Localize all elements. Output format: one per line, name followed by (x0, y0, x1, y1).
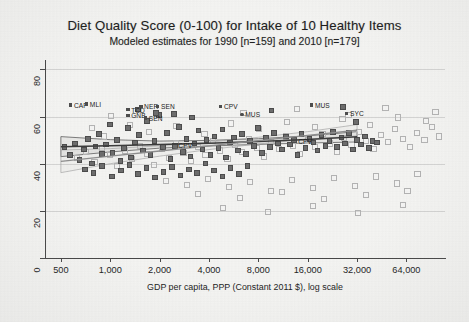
country-label-text: CPV (224, 103, 238, 110)
country-label-text: CPV (178, 142, 192, 149)
y-tick-label-20: 20 (32, 210, 42, 236)
chart-page: Diet Quality Score (0-100) for Intake of… (0, 0, 469, 322)
country-label-mli: MLI (85, 100, 101, 108)
plot-area: 020406080 5001,0002,0004,0008,00016,0003… (45, 60, 445, 258)
country-label-text: MUS (315, 102, 330, 109)
x-tick-label-4000: 4,000 (197, 265, 220, 275)
label-marker-icon (219, 105, 222, 108)
label-marker-icon (144, 116, 147, 119)
country-label-sen: SEN (156, 102, 175, 110)
country-label-text: SEN (149, 115, 163, 122)
y-tick-label-80: 80 (32, 68, 42, 94)
country-label-mus: MUS (310, 101, 330, 109)
y-axis-line (45, 60, 46, 259)
x-axis-title: GDP per capita, PPP (Constant 2011 $), l… (45, 282, 445, 292)
chart-subtitle: Modeled estimates for 1990 [n=159] and 2… (0, 35, 469, 49)
chart-title-block: Diet Quality Score (0-100) for Intake of… (0, 18, 469, 49)
country-label-text: SEN (161, 103, 175, 110)
x-tick-label-8000: 8,000 (247, 265, 270, 275)
country-label-syc: SYC (345, 109, 364, 117)
y-tick-label-0: 0 (32, 257, 42, 283)
x-tick-label-1000: 1,000 (99, 265, 122, 275)
country-label-sen: SEN (144, 114, 163, 122)
label-marker-icon (310, 103, 313, 106)
x-axis-line (45, 258, 446, 259)
country-label-text: MLI (90, 100, 101, 107)
x-tick-label-2000: 2,000 (148, 265, 171, 275)
country-label-cpv: CPV (298, 137, 312, 145)
x-tick-label-64000: 64,000 (392, 265, 420, 275)
label-marker-icon (240, 113, 243, 116)
label-marker-icon (69, 103, 72, 106)
country-label-cpv: CPV (219, 102, 238, 110)
label-marker-icon (345, 112, 348, 115)
country-label-mus: MUS (240, 110, 260, 118)
label-marker-icon (156, 105, 159, 108)
x-tick-label-500: 500 (53, 265, 68, 275)
label-marker-icon (126, 114, 129, 117)
country-label-text: MUS (245, 111, 260, 118)
trend-lines (45, 60, 445, 258)
country-label-text: CPV (298, 138, 312, 145)
y-tick-label-60: 60 (32, 116, 42, 142)
x-tick-label-32000: 32,000 (343, 265, 371, 275)
label-marker-icon (139, 105, 142, 108)
country-label-cpv: CPV (178, 141, 192, 149)
y-tick-label-40: 40 (32, 163, 42, 189)
x-tick-label-16000: 16,000 (294, 265, 322, 275)
country-label-text: SYC (350, 110, 364, 117)
label-marker-icon (85, 102, 88, 105)
page-title: Diet Quality Score (0-100) for Intake of… (0, 18, 469, 34)
